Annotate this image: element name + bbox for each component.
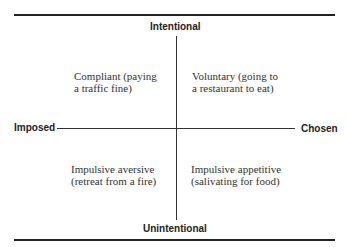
bottom-rule	[14, 239, 335, 241]
axis-label-unintentional: Unintentional	[143, 223, 207, 234]
quadrant-line: Voluntary (going to	[192, 70, 278, 82]
axis-label-intentional: Intentional	[150, 21, 201, 32]
quadrant-line: Impulsive appetitive	[191, 163, 281, 175]
quadrant-compliant: Compliant (paying a traffic fine)	[74, 70, 157, 94]
quadrant-line: (retreat from a fire)	[71, 175, 156, 187]
axis-label-chosen: Chosen	[301, 123, 338, 134]
top-rule	[14, 14, 335, 16]
quadrant-line: Compliant (paying	[74, 70, 157, 82]
quadrant-impulsive-aversive: Impulsive aversive (retreat from a fire)	[71, 163, 156, 187]
axis-label-imposed: Imposed	[14, 122, 55, 133]
quadrant-line: a traffic fine)	[74, 82, 157, 94]
quadrant-impulsive-appetitive: Impulsive appetitive (salivating for foo…	[191, 163, 281, 187]
quadrant-line: Impulsive aversive	[71, 163, 156, 175]
horizontal-axis	[57, 128, 295, 129]
quadrant-line: a restaurant to eat)	[192, 82, 278, 94]
quadrant-line: (salivating for food)	[191, 175, 281, 187]
quadrant-voluntary: Voluntary (going to a restaurant to eat)	[192, 70, 278, 94]
